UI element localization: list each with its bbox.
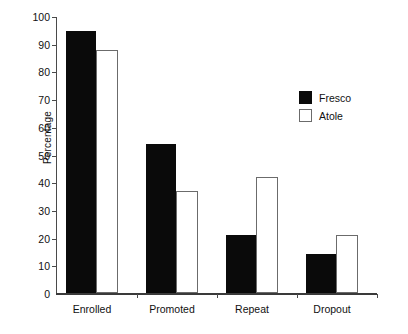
y-tick-label: 60 [24, 123, 50, 133]
legend-swatch-outlined-square-icon [299, 109, 312, 122]
y-tick-label: 20 [24, 234, 50, 244]
x-tick-mark [297, 294, 298, 298]
x-axis-label-repeat: Repeat [212, 303, 292, 315]
y-tick-label: 0 [24, 289, 50, 299]
y-tick-label: 90 [24, 40, 50, 50]
bar-fresco-promoted [146, 144, 176, 293]
legend: Fresco Atole [299, 89, 351, 125]
x-tick-mark [217, 294, 218, 298]
y-tick-label: 10 [24, 261, 50, 271]
legend-label: Atole [319, 110, 343, 122]
legend-label: Fresco [319, 92, 351, 104]
bar-fresco-enrolled [66, 31, 96, 293]
y-tick-label: 50 [24, 151, 50, 161]
bar-atole-dropout [336, 235, 358, 293]
x-tick-mark [377, 294, 378, 298]
y-tick-label: 80 [24, 67, 50, 77]
y-axis-line [56, 17, 57, 294]
bar-fresco-dropout [306, 254, 336, 293]
y-tick-label: 30 [24, 206, 50, 216]
x-axis-label-enrolled: Enrolled [52, 303, 132, 315]
legend-item-fresco: Fresco [299, 89, 351, 106]
x-tick-mark [137, 294, 138, 298]
y-tick-label: 70 [24, 95, 50, 105]
bar-atole-repeat [256, 177, 278, 293]
bar-fresco-repeat [226, 235, 256, 293]
y-axis-tick-labels: 100 90 80 70 60 50 40 30 20 10 0 [22, 0, 50, 334]
legend-swatch-filled-square-icon [299, 91, 312, 104]
bar-chart: Percentage 100 90 80 70 60 50 40 30 20 1… [0, 0, 408, 334]
x-axis-label-promoted: Promoted [132, 303, 212, 315]
bar-atole-enrolled [96, 50, 118, 293]
bar-atole-promoted [176, 191, 198, 293]
legend-item-atole: Atole [299, 107, 351, 124]
y-tick-label: 40 [24, 178, 50, 188]
x-axis-label-dropout: Dropout [292, 303, 372, 315]
y-tick-label: 100 [24, 12, 50, 22]
